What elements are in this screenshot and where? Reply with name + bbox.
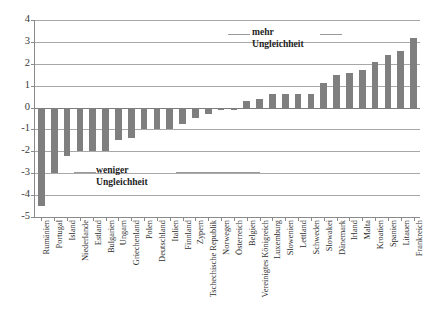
x-axis-category-label: Island	[66, 220, 74, 240]
x-axis-category-label: Slowenien	[284, 220, 292, 255]
annotation-rule-more-right	[320, 34, 342, 35]
bar	[154, 108, 161, 130]
category-label-text: Dänemark	[339, 220, 347, 255]
category-label-text: Vereinigtes Königreich	[262, 220, 270, 297]
y-axis-tick	[31, 173, 35, 174]
bar	[231, 108, 238, 110]
x-axis-category-label: Estland	[92, 220, 100, 245]
category-label-text: Polen	[146, 220, 154, 239]
category-label-text: Österreich	[236, 220, 244, 255]
bar	[385, 55, 392, 108]
x-axis-category-label: Rumänien	[40, 220, 48, 254]
bar	[192, 108, 199, 119]
category-label-text: Griechenland	[133, 220, 141, 265]
y-axis-tick	[31, 129, 35, 130]
category-label-text: Ungarn	[120, 220, 128, 245]
category-label-text: Estland	[95, 220, 103, 245]
gridline	[35, 20, 420, 21]
x-axis-category-label: Luxemburg	[271, 220, 279, 259]
y-axis-tick-label: -2	[6, 145, 30, 156]
y-axis-tick	[31, 108, 35, 109]
category-label-text: Slowakei	[326, 220, 334, 251]
annotation-less-inequality: weniger Ungleichheit	[96, 164, 148, 187]
bar	[372, 62, 379, 108]
x-axis-category-label: Frankreich	[413, 220, 421, 256]
category-label-text: Italien	[172, 220, 180, 241]
category-label-text: Norwegen	[223, 220, 231, 255]
bar	[218, 108, 225, 110]
plot-area	[34, 20, 420, 218]
bar	[89, 108, 96, 152]
y-axis-tick-label: -5	[6, 211, 30, 222]
x-axis-category-label: Lettland	[297, 220, 305, 248]
y-axis-tick	[31, 86, 35, 87]
x-axis-category-label: Dänemark	[336, 220, 344, 255]
y-axis-tick-label: -1	[6, 123, 30, 134]
bar	[320, 83, 327, 107]
bar	[397, 51, 404, 108]
category-label-text: Finnland	[185, 220, 193, 250]
x-axis-category-label: Schweden	[310, 220, 318, 254]
bar	[115, 108, 122, 141]
x-axis-category-label: Irland	[348, 220, 356, 240]
y-axis-tick-label: 3	[6, 36, 30, 47]
category-label-text: Deutschland	[159, 220, 167, 262]
category-label-text: Schweden	[313, 220, 321, 254]
category-label-text: Spanien	[390, 220, 398, 247]
category-label-text: Portugal	[56, 220, 64, 248]
category-label-text: Belgien	[249, 220, 257, 246]
bar	[166, 108, 173, 130]
bar	[308, 94, 315, 107]
annotation-more-line2: Ungleichheit	[252, 38, 304, 50]
x-axis-category-label: Vereinigtes Königreich	[259, 220, 267, 297]
x-axis-category-label: Finnland	[182, 220, 190, 250]
category-label-text: Tschechische Republik	[210, 220, 218, 297]
bar	[51, 108, 58, 174]
y-axis-tick-label: 1	[6, 80, 30, 91]
y-axis-tick	[31, 64, 35, 65]
gridline	[35, 42, 420, 43]
x-axis-category-label: Malta	[361, 220, 369, 240]
x-axis-category-label: Slowakei	[323, 220, 331, 251]
category-label-text: Rumänien	[43, 220, 51, 254]
x-axis-category-label: Italien	[169, 220, 177, 241]
x-axis-category-label: Ungarn	[117, 220, 125, 245]
category-label-text: Zypern	[197, 220, 205, 244]
y-axis-tick	[31, 42, 35, 43]
gridline	[35, 64, 420, 65]
category-label-text: Niederlande	[82, 220, 90, 261]
category-label-text: Island	[69, 220, 77, 240]
y-axis-tick	[31, 151, 35, 152]
gridline	[35, 195, 420, 196]
bar	[295, 94, 302, 107]
inequality-bar-chart: 43210-1-2-3-4-5 RumänienPortugalIslandNi…	[0, 0, 428, 325]
y-axis-tick-label: -4	[6, 189, 30, 200]
annotation-rule-less-left	[74, 172, 96, 173]
y-axis-tick	[31, 217, 35, 218]
x-axis-category-label: Portugal	[53, 220, 61, 248]
annotation-rule-less-right	[176, 172, 260, 173]
x-axis-category-label: Kroatien	[374, 220, 382, 249]
x-axis-category-label: Norwegen	[220, 220, 228, 255]
x-axis-category-label: Niederlande	[79, 220, 87, 261]
x-axis-category-label: Österreich	[233, 220, 241, 255]
gridline	[35, 173, 420, 174]
category-label-text: Litauen	[403, 220, 411, 246]
annotation-rule-more-left	[228, 34, 250, 35]
annotation-less-line1: weniger	[96, 164, 148, 176]
bar	[128, 108, 135, 139]
x-axis-category-label: Polen	[143, 220, 151, 239]
bar	[269, 94, 276, 107]
x-axis-category-label: Bulgarien	[105, 220, 113, 253]
y-axis-tick-label: 4	[6, 14, 30, 25]
category-label-text: Bulgarien	[108, 220, 116, 253]
y-axis-tick-label: 2	[6, 58, 30, 69]
bar	[205, 108, 212, 115]
bar	[141, 108, 148, 130]
bar	[256, 99, 263, 108]
annotation-more-inequality: mehr Ungleichheit	[252, 26, 304, 49]
category-label-text: Kroatien	[377, 220, 385, 249]
x-axis-category-label: Deutschland	[156, 220, 164, 262]
bar	[243, 101, 250, 108]
x-axis-category-label: Belgien	[246, 220, 254, 246]
